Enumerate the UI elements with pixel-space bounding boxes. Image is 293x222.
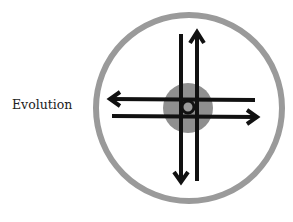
center-circle [182, 101, 194, 113]
evolution-diagram [0, 0, 293, 222]
